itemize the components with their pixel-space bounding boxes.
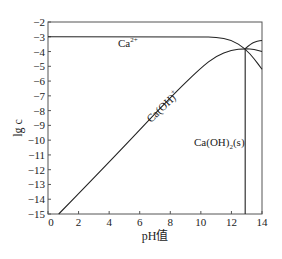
x-axis-title: pH值 xyxy=(142,228,169,243)
series-label-ca2: Ca2+ xyxy=(118,36,138,49)
series-label-caoh: Ca(OH)+ xyxy=(143,88,181,125)
y-tick-label: −8 xyxy=(33,105,45,117)
y-tick-label: −7 xyxy=(33,90,45,102)
y-tick-label: −9 xyxy=(33,119,45,131)
y-axis-title: lg c xyxy=(11,119,25,137)
y-tick-label: −2 xyxy=(33,16,45,28)
y-tick-label: −11 xyxy=(28,149,45,161)
x-tick-label: 8 xyxy=(168,216,174,228)
x-tick-label: 4 xyxy=(106,216,112,228)
y-tick-label: −14 xyxy=(28,193,46,205)
y-tick-label: −4 xyxy=(33,46,45,58)
x-tick-label: 14 xyxy=(257,216,269,228)
series-label-caoh2s: Ca(OH)2(s) xyxy=(194,136,245,151)
series-line-1 xyxy=(59,49,262,214)
y-tick-label: −15 xyxy=(28,208,46,220)
x-tick-label: 0 xyxy=(48,216,54,228)
series-line-0 xyxy=(48,37,262,69)
chart: −2−3−4−5−6−7−8−9−10−11−12−13−14−15 02468… xyxy=(0,0,282,259)
y-tick-label: −6 xyxy=(33,75,45,87)
y-tick-label: −13 xyxy=(28,178,46,190)
x-tick-label: 12 xyxy=(226,216,237,228)
y-tick-label: −10 xyxy=(28,134,46,146)
series-line-2 xyxy=(245,40,262,48)
y-tick-label: −5 xyxy=(33,60,45,72)
x-tick-label: 6 xyxy=(137,216,143,228)
y-tick-label: −12 xyxy=(28,164,45,176)
x-tick-label: 2 xyxy=(76,216,82,228)
x-tick-label: 10 xyxy=(195,216,207,228)
y-tick-label: −3 xyxy=(33,31,45,43)
series-lines xyxy=(48,37,262,214)
